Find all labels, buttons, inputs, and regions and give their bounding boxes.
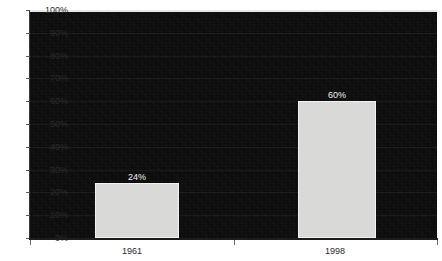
x-tick-mark-end xyxy=(437,240,438,245)
y-tick-mark-60 xyxy=(26,101,30,102)
plot-area: 24% 60% xyxy=(30,10,437,238)
gridline-70 xyxy=(30,78,437,79)
y-tick-mark-20 xyxy=(26,192,30,193)
y-tick-label-10: 10% xyxy=(38,210,68,220)
gridline-90 xyxy=(30,33,437,34)
bar-1961[interactable] xyxy=(95,183,179,238)
bar-value-label-1998: 60% xyxy=(298,90,376,100)
plot-top-border xyxy=(30,10,437,12)
y-tick-mark-70 xyxy=(26,78,30,79)
y-tick-mark-30 xyxy=(26,170,30,171)
gridline-80 xyxy=(30,56,437,57)
y-tick-label-40: 40% xyxy=(38,142,68,152)
y-tick-label-60: 60% xyxy=(38,96,68,106)
bar-value-label-1961: 24% xyxy=(95,172,179,182)
chart-title xyxy=(0,0,442,2)
y-tick-mark-80 xyxy=(26,56,30,57)
y-tick-label-30: 30% xyxy=(38,165,68,175)
x-tick-label-1998: 1998 xyxy=(285,246,385,257)
y-tick-mark-90 xyxy=(26,33,30,34)
y-tick-mark-40 xyxy=(26,147,30,148)
y-tick-mark-10 xyxy=(26,215,30,216)
bar-1998[interactable] xyxy=(298,101,376,238)
y-tick-label-70: 70% xyxy=(38,73,68,83)
y-tick-label-50: 50% xyxy=(38,119,68,129)
y-tick-mark-100 xyxy=(26,10,30,11)
y-tick-label-20: 20% xyxy=(38,187,68,197)
y-tick-label-100: 100% xyxy=(38,5,68,15)
y-tick-label-90: 90% xyxy=(38,28,68,38)
y-tick-mark-50 xyxy=(26,124,30,125)
y-tick-label-80: 80% xyxy=(38,51,68,61)
bar-chart: 24% 60% 100% 90% 80% 70% 60% 50% 40% 30%… xyxy=(0,0,442,261)
x-tick-mark-start xyxy=(30,240,31,245)
x-tick-label-1961: 1961 xyxy=(82,246,182,257)
x-tick-mark-mid xyxy=(234,240,235,245)
